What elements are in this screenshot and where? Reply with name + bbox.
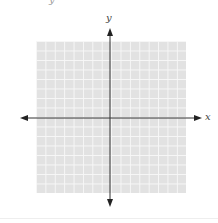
axes: [0, 0, 218, 223]
y-axis-label: y: [106, 12, 112, 23]
y-arrow-down-icon: [107, 199, 113, 207]
x-arrow-left-icon: [20, 115, 28, 121]
x-axis-label: x: [205, 111, 211, 122]
y-arrow-up-icon: [107, 28, 113, 36]
divider: [0, 218, 218, 219]
x-arrow-right-icon: [194, 115, 202, 121]
